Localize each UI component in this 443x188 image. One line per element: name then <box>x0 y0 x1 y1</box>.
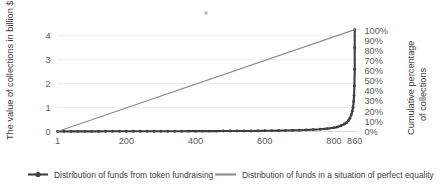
x-tick-860: 860 <box>347 136 362 146</box>
secondary-y-axis-title-line1: Cumulative percentage <box>406 41 416 135</box>
legend-marker-token-fundraising <box>35 172 40 177</box>
x-tick-200: 200 <box>119 136 134 146</box>
y2-tick-90pct: 90% <box>365 36 383 46</box>
y-tick-3: 3 <box>45 55 50 65</box>
chart-container: 01234 0%10%20%30%40%50%60%70%80%90%100% … <box>0 0 443 188</box>
x-axis-tick-labels: 1200400600800860 <box>55 136 362 146</box>
top-mark <box>204 11 207 14</box>
y2-tick-50pct: 50% <box>365 76 383 86</box>
y-axis-title: The value of collections in billion $ <box>5 1 15 140</box>
secondary-y-axis-title-line2: of collections <box>418 67 428 121</box>
y2-tick-100pct: 100% <box>365 26 389 36</box>
y2-tick-60pct: 60% <box>365 66 383 76</box>
x-tick-800: 800 <box>326 136 341 146</box>
y2-tick-40pct: 40% <box>365 86 383 96</box>
y2-tick-70pct: 70% <box>365 56 383 66</box>
secondary-y-axis-tick-labels: 0%10%20%30%40%50%60%70%80%90%100% <box>365 26 389 137</box>
y2-tick-0pct: 0% <box>365 127 378 137</box>
gridlines <box>58 36 358 132</box>
y2-tick-10pct: 10% <box>365 117 383 127</box>
y-tick-1: 1 <box>45 103 50 113</box>
x-tick-400: 400 <box>188 136 203 146</box>
lorenz-curve-chart: 01234 0%10%20%30%40%50%60%70%80%90%100% … <box>0 0 443 188</box>
legend-label-token-fundraising: Distribution of funds from token fundrai… <box>54 170 214 180</box>
chart-annotations <box>204 11 207 14</box>
y2-tick-80pct: 80% <box>365 46 383 56</box>
y-tick-0: 0 <box>45 127 50 137</box>
series-line-perfect-equality <box>58 30 355 132</box>
y2-tick-20pct: 20% <box>365 107 383 117</box>
y2-tick-30pct: 30% <box>365 96 383 106</box>
y-axis-tick-labels: 01234 <box>45 31 50 137</box>
chart-legend: Distribution of funds from token fundrai… <box>28 170 435 180</box>
legend-label-perfect-equality: Distribution of funds in a situation of … <box>242 170 435 180</box>
x-tick-1: 1 <box>55 136 60 146</box>
y-tick-2: 2 <box>45 79 50 89</box>
x-tick-600: 600 <box>257 136 272 146</box>
y-tick-4: 4 <box>45 31 50 41</box>
data-series <box>56 28 356 133</box>
